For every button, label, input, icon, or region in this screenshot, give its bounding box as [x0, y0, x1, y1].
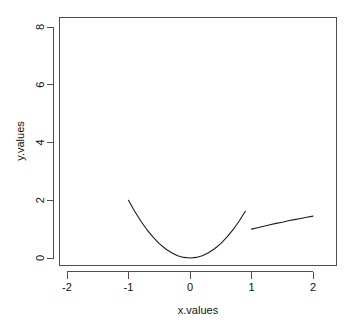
x-axis-title: x.values: [178, 304, 219, 316]
x-tick-label: 0: [187, 281, 193, 293]
y-tick-label: 0: [34, 255, 46, 261]
y-axis-title: y.values: [14, 121, 26, 161]
y-tick-label: 8: [34, 24, 46, 30]
x-tick-label: -1: [124, 281, 134, 293]
chart-background: [0, 0, 352, 328]
plot-root: 02468-2-1012 x.values y.values: [0, 0, 352, 328]
x-tick-label: 2: [310, 281, 316, 293]
y-tick-label: 4: [34, 139, 46, 145]
chart-canvas: 02468-2-1012 x.values y.values: [0, 0, 352, 328]
y-tick-label: 2: [34, 197, 46, 203]
x-tick-label: -2: [62, 281, 72, 293]
x-tick-label: 1: [248, 281, 254, 293]
y-tick-label: 6: [34, 82, 46, 88]
